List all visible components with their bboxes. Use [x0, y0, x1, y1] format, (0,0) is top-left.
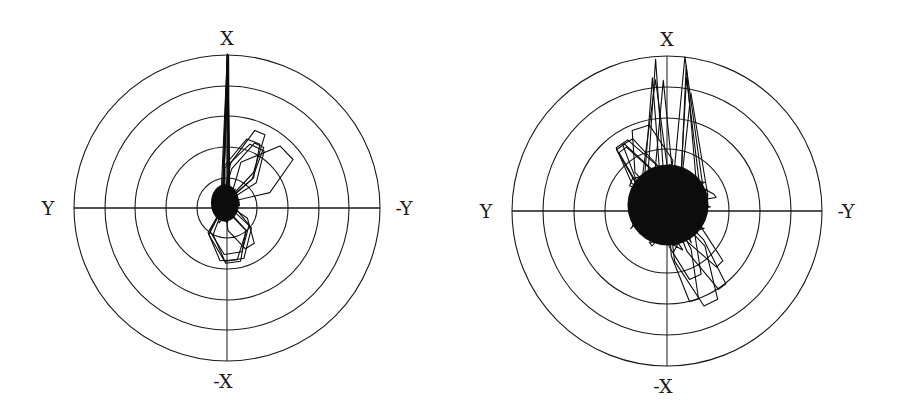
left-label-y: Y — [41, 197, 55, 219]
right-label-neg-x: -X — [653, 375, 673, 397]
left-label-neg-x: -X — [213, 370, 233, 392]
left-polar-plot: X -X Y -Y — [41, 27, 413, 392]
left-label-neg-y: -Y — [396, 197, 413, 219]
right-label-x: X — [660, 28, 674, 50]
right-label-y: Y — [479, 200, 493, 222]
right-label-neg-y: -Y — [838, 200, 855, 222]
left-plot-trajectory — [208, 54, 293, 264]
polar-trajectory-figure: X -X Y -Y X -X Y -Y — [0, 0, 902, 418]
left-label-x: X — [220, 27, 234, 49]
right-polar-plot: X -X Y -Y — [479, 28, 855, 397]
